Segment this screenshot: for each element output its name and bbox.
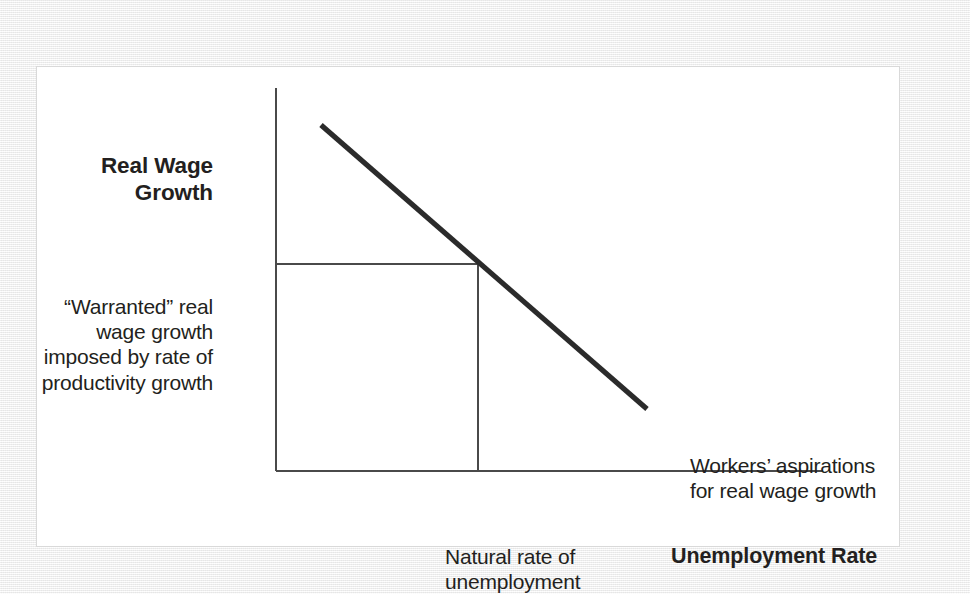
y-axis-title: Real Wage Growth (0, 152, 213, 206)
warranted-wage-growth-annotation: “Warranted” real wage growth imposed by … (0, 294, 213, 395)
workers-aspirations-annotation: Workers’ aspirations for real wage growt… (690, 453, 970, 503)
natural-rate-of-unemployment-annotation: Natural rate of unemployment (445, 544, 665, 594)
x-axis-title: Unemployment Rate (671, 544, 931, 570)
figure-panel: Real Wage Growth “Warranted” real wage g… (36, 66, 900, 547)
wage-aspiration-curve (321, 125, 647, 409)
